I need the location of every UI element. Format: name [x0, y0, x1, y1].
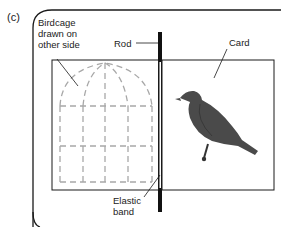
panel-frame: [33, 10, 281, 227]
card-leader: [214, 49, 227, 78]
diagram-canvas: [0, 0, 281, 227]
rod: [158, 32, 162, 62]
bird-illustration: [175, 91, 258, 161]
